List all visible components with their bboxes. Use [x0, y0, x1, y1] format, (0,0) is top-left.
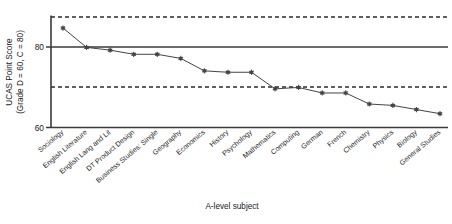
x-axis-category-label: German — [300, 128, 325, 151]
marker-core — [132, 53, 135, 56]
marker-core — [415, 108, 418, 111]
marker-core — [344, 91, 347, 94]
x-axis-category-labels-group: SociologyEnglish LiteratureEnglish Lang … — [37, 128, 443, 185]
marker-core — [297, 86, 300, 89]
y-axis-title-line2: (Grade D = 60, C = 80) — [16, 30, 25, 114]
marker-core — [439, 112, 442, 115]
x-axis-category-label: General Studies — [398, 128, 442, 167]
marker-core — [226, 71, 229, 74]
marker-core — [391, 104, 394, 107]
y-axis-title-line1: UCAS Point Score — [5, 38, 14, 106]
y-axis-title-group: UCAS Point Score (Grade D = 60, C = 80) — [5, 30, 25, 114]
x-axis-category-label: Chemistry — [342, 128, 372, 155]
y-tick-label-80: 80 — [35, 42, 45, 52]
data-series-group — [61, 25, 443, 116]
marker-core — [109, 49, 112, 52]
marker-core — [203, 69, 206, 72]
marker-core — [250, 71, 253, 74]
x-axis-category-label: Physics — [371, 128, 395, 150]
marker-core — [274, 87, 277, 90]
marker-core — [179, 57, 182, 60]
y-axis-ticks-group: 80 60 — [35, 42, 51, 133]
marker-core — [62, 27, 65, 30]
marker-core — [321, 91, 324, 94]
chart-figure: 80 60 UCAS Point Score (Grade D = 60, C … — [0, 0, 452, 224]
marker-core — [85, 46, 88, 49]
marker-core — [156, 53, 159, 56]
ucas-point-score-line-chart: 80 60 UCAS Point Score (Grade D = 60, C … — [0, 0, 452, 224]
marker-core — [368, 103, 371, 106]
y-tick-label-60: 60 — [35, 123, 45, 133]
x-axis-title: A-level subject — [205, 202, 259, 211]
